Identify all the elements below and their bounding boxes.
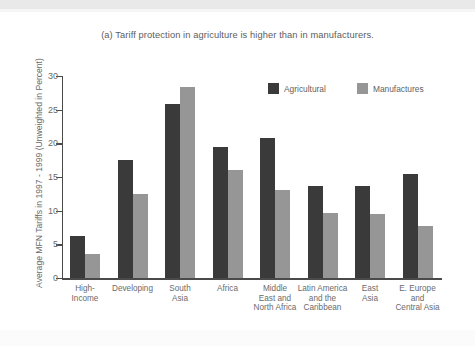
- bar-manufactures: [133, 194, 148, 278]
- chart-figure: (a) Tariff protection in agriculture is …: [0, 0, 475, 346]
- bar-group: [355, 76, 385, 278]
- x-axis-category-label: E. Europe and Central Asia: [378, 284, 458, 313]
- bar-group: [308, 76, 338, 278]
- plot-area: 051015202530 High- IncomeDevelopingSouth…: [62, 76, 442, 278]
- bar-manufactures: [228, 170, 243, 278]
- bar-agricultural: [213, 147, 228, 278]
- chart-title: (a) Tariff protection in agriculture is …: [0, 30, 475, 40]
- page-scan-band-top-secondary: [0, 9, 475, 12]
- y-axis-tick-label: 25: [48, 105, 58, 115]
- bar-manufactures: [85, 254, 100, 278]
- bar-group: [260, 76, 290, 278]
- bar-manufactures: [370, 214, 385, 278]
- bar-group: [403, 76, 433, 278]
- bar-group: [213, 76, 243, 278]
- bar-agricultural: [403, 174, 418, 278]
- y-axis-line: [62, 76, 63, 278]
- bar-manufactures: [275, 190, 290, 278]
- bar-agricultural: [165, 104, 180, 278]
- page-scan-band-bottom: [0, 330, 475, 346]
- y-axis-tick-label: 0: [53, 273, 58, 283]
- bar-group: [118, 76, 148, 278]
- page-scan-band-top: [0, 0, 475, 9]
- bar-manufactures: [418, 226, 433, 278]
- bar-agricultural: [355, 186, 370, 278]
- bar-agricultural: [118, 160, 133, 278]
- bar-group: [165, 76, 195, 278]
- x-axis-line: [62, 278, 442, 280]
- y-axis-title: Average MFN Tariffs in 1997 - 1999 (Unwe…: [34, 58, 44, 288]
- y-axis-tick-label: 30: [48, 71, 58, 81]
- y-axis-tick-label: 10: [48, 206, 58, 216]
- bar-agricultural: [70, 236, 85, 278]
- bar-agricultural: [260, 138, 275, 278]
- bar-manufactures: [180, 87, 195, 278]
- bar-group: [70, 76, 100, 278]
- y-axis-tick-label: 20: [48, 138, 58, 148]
- y-axis-tick-label: 5: [53, 239, 58, 249]
- y-axis-tick-label: 15: [48, 172, 58, 182]
- bar-agricultural: [308, 186, 323, 278]
- bar-manufactures: [323, 213, 338, 278]
